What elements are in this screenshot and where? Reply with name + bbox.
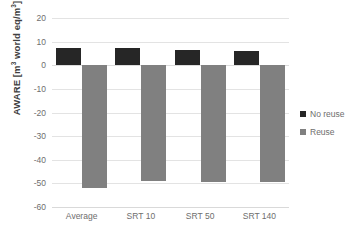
bar-no-reuse[interactable] bbox=[234, 51, 259, 66]
y-tick-label: -10 bbox=[34, 84, 46, 94]
y-tick-label: -40 bbox=[34, 155, 46, 165]
y-tick-label: 20 bbox=[37, 13, 46, 23]
bar-reuse[interactable] bbox=[201, 65, 226, 182]
legend-item-reuse[interactable]: Reuse bbox=[300, 128, 358, 137]
plot-area: 20100-10-20-30-40-50-60 bbox=[52, 18, 289, 207]
y-tick-label: 0 bbox=[41, 60, 46, 70]
legend-item-no-reuse[interactable]: No reuse bbox=[300, 110, 358, 119]
y-tick-label: -30 bbox=[34, 131, 46, 141]
y-tick-label: -20 bbox=[34, 108, 46, 118]
y-tick-label: 10 bbox=[37, 37, 46, 47]
bar-group bbox=[52, 18, 111, 207]
bar-chart: AWARE [m3 world eq/m3] 20100-10-20-30-40… bbox=[0, 0, 359, 242]
x-tick-label: SRT 140 bbox=[243, 211, 276, 221]
bar-no-reuse[interactable] bbox=[115, 48, 140, 65]
bar-no-reuse[interactable] bbox=[56, 48, 81, 66]
bar-group bbox=[111, 18, 170, 207]
legend-swatch-icon bbox=[300, 129, 306, 135]
legend: No reuseReuse bbox=[300, 110, 358, 145]
y-tick-label: -60 bbox=[34, 202, 46, 212]
bar-reuse[interactable] bbox=[141, 65, 166, 181]
gridline--60 bbox=[52, 207, 289, 208]
x-tick-label: Average bbox=[66, 211, 98, 221]
y-axis-title-text: AWARE [m3 world eq/m3] bbox=[11, 1, 22, 115]
legend-label: No reuse bbox=[310, 110, 345, 119]
bar-reuse[interactable] bbox=[260, 65, 285, 181]
legend-swatch-icon bbox=[300, 111, 306, 117]
bar-group bbox=[171, 18, 230, 207]
legend-label: Reuse bbox=[310, 128, 335, 137]
x-tick-label: SRT 50 bbox=[186, 211, 215, 221]
y-tick-label: -50 bbox=[34, 178, 46, 188]
bar-reuse[interactable] bbox=[82, 65, 107, 188]
bar-no-reuse[interactable] bbox=[175, 50, 200, 65]
y-axis-title: AWARE [m3 world eq/m3] bbox=[9, 0, 25, 138]
bar-group bbox=[230, 18, 289, 207]
x-tick-label: SRT 10 bbox=[127, 211, 156, 221]
